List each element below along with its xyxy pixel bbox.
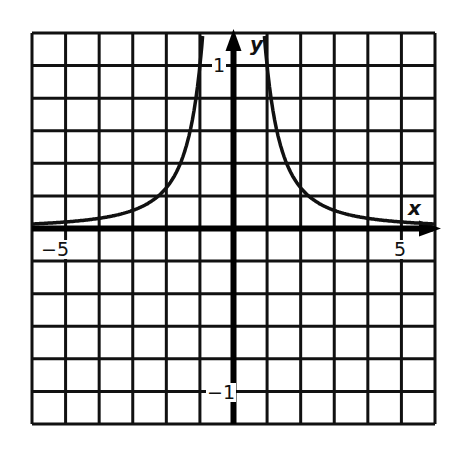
x-tick-label-5: 5 — [393, 240, 407, 259]
y-axis-label: y — [250, 34, 263, 54]
y-tick-label-neg1: −1 — [206, 383, 236, 402]
axes — [32, 29, 441, 424]
x-tick-label-neg5: −5 — [40, 240, 70, 259]
y-tick-label-1: 1 — [212, 56, 226, 75]
x-axis-label: x — [408, 198, 421, 218]
